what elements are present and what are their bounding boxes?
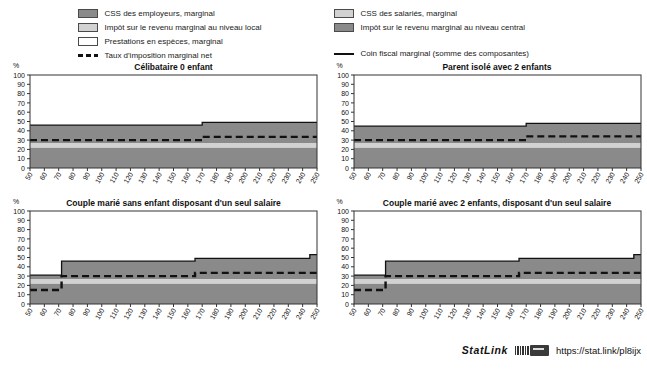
x-tick-label: 200	[237, 171, 249, 185]
chart-title-3: Couple marié avec 2 enfants, disposant d…	[354, 198, 641, 208]
area-band-2	[354, 279, 641, 284]
x-tick-label: 140	[151, 307, 163, 321]
y-tick-label: 40	[341, 127, 349, 134]
x-tick-label: 250	[309, 307, 321, 321]
y-tick-label: 90	[341, 217, 349, 224]
y-tick-label: 70	[17, 100, 25, 107]
x-tick-label: 90	[81, 171, 91, 181]
x-tick-label: 180	[209, 307, 221, 321]
y-tick-label: 40	[17, 263, 25, 270]
x-tick-label: 250	[632, 307, 644, 321]
x-tick-label: 210	[575, 307, 587, 321]
x-tick-label: 210	[575, 171, 587, 185]
x-tick-label: 80	[67, 171, 77, 181]
legend-item-income-tax-central: Impôt sur le revenu marginal au niveau c…	[334, 22, 574, 33]
y-tick-label: 10	[17, 155, 25, 162]
y-tick-label: 50	[341, 254, 349, 261]
y-tick-label: 60	[17, 109, 25, 116]
plot-area-0: 0102030405060708090100506070809010011012…	[0, 72, 323, 198]
y-tick-label: 30	[17, 137, 25, 144]
legend-label-employer-ssc: CSS des employeurs, marginal	[105, 9, 215, 18]
plot-svg-couple-marie-sans-enfant: 0102030405060708090100506070809010011012…	[0, 208, 323, 334]
legend-swatch-income-tax-central	[334, 23, 354, 32]
y-tick-label: 0	[345, 165, 349, 172]
x-tick-label: 190	[223, 171, 235, 185]
x-tick-label: 60	[38, 171, 48, 181]
legend-label-cash-benefits: Prestations en espèces, marginal	[105, 37, 223, 46]
x-tick-label: 140	[151, 171, 163, 185]
statlink-footer: StatLink https://stat.link/pl8ijx	[0, 339, 647, 361]
x-tick-label: 110	[432, 307, 444, 320]
x-tick-label: 240	[618, 307, 630, 321]
plot-area-3: 0102030405060708090100506070809010011012…	[324, 208, 647, 334]
x-tick-label: 70	[53, 307, 63, 317]
x-tick-label: 120	[122, 307, 134, 321]
x-tick-label: 250	[632, 171, 644, 185]
plot-svg-parent-isole-2-enfants: 0102030405060708090100506070809010011012…	[324, 72, 647, 198]
chart-panel-grid: % Célibataire 0 enfant 01020304050607080…	[0, 62, 647, 334]
y-tick-label: 90	[17, 217, 25, 224]
y-tick-label: 0	[21, 165, 25, 172]
legend-item-net-marginal-rate: Taux d'imposition marginal net	[78, 50, 324, 61]
legend-item-employee-ssc: CSS des salariés, marginal	[334, 8, 574, 19]
area-band-0	[354, 284, 641, 304]
y-tick-label: 50	[341, 118, 349, 125]
x-tick-label: 140	[475, 171, 487, 185]
chart-title-0: Célibataire 0 enfant	[30, 62, 317, 72]
y-tick-label: 20	[17, 282, 25, 289]
y-axis-unit-label-1: %	[337, 62, 343, 69]
y-tick-label: 30	[341, 273, 349, 280]
x-tick-label: 70	[376, 171, 386, 181]
y-tick-label: 70	[341, 236, 349, 243]
legend-solid-line-icon	[334, 49, 354, 58]
x-tick-label: 240	[295, 307, 307, 321]
y-tick-label: 60	[341, 109, 349, 116]
y-tick-label: 80	[341, 90, 349, 97]
legend-item-employer-ssc: CSS des employeurs, marginal	[78, 8, 324, 19]
x-tick-label: 120	[446, 307, 458, 321]
chart-title-1: Parent isolé avec 2 enfants	[354, 62, 641, 72]
y-tick-label: 70	[341, 100, 349, 107]
x-tick-label: 200	[561, 171, 573, 185]
y-tick-label: 50	[17, 254, 25, 261]
x-tick-label: 150	[489, 171, 501, 185]
x-tick-label: 220	[589, 307, 601, 321]
y-tick-label: 10	[17, 291, 25, 298]
x-tick-label: 50	[347, 171, 357, 181]
x-tick-label: 200	[561, 307, 573, 321]
x-tick-label: 160	[503, 171, 515, 185]
x-tick-label: 100	[417, 171, 429, 185]
y-tick-label: 70	[17, 236, 25, 243]
y-tick-label: 80	[17, 226, 25, 233]
x-tick-label: 200	[237, 307, 249, 321]
x-tick-label: 190	[223, 307, 235, 321]
x-tick-label: 110	[108, 307, 120, 320]
y-axis-unit-label-0: %	[13, 62, 19, 69]
y-tick-label: 30	[17, 273, 25, 280]
x-tick-label: 90	[405, 171, 415, 181]
x-tick-label: 50	[24, 307, 34, 317]
figure-root: CSS des employeurs, marginal Impôt sur l…	[0, 0, 647, 369]
x-tick-label: 210	[252, 307, 264, 321]
area-band-0	[30, 284, 317, 304]
x-tick-label: 190	[546, 171, 558, 185]
x-tick-label: 100	[94, 171, 106, 185]
y-tick-label: 100	[13, 72, 25, 79]
x-tick-label: 150	[165, 171, 177, 185]
legend-swatch-cash-benefits	[78, 37, 98, 46]
statlink-url[interactable]: https://stat.link/pl8ijx	[556, 345, 641, 356]
x-tick-label: 240	[295, 171, 307, 185]
x-tick-label: 100	[94, 307, 106, 321]
legend-dashed-line-icon	[78, 51, 98, 60]
y-tick-label: 100	[337, 72, 349, 79]
x-tick-label: 130	[137, 307, 149, 321]
y-tick-label: 100	[337, 208, 349, 215]
x-tick-label: 70	[53, 171, 63, 181]
x-tick-label: 90	[405, 307, 415, 317]
x-tick-label: 220	[266, 171, 278, 185]
legend-column-left: CSS des employeurs, marginal Impôt sur l…	[74, 8, 324, 62]
chart-panel-couple-marie-sans-enfant: % Couple marié sans enfant disposant d'u…	[0, 198, 323, 334]
x-tick-label: 60	[38, 307, 48, 317]
x-tick-label: 250	[309, 171, 321, 185]
x-tick-label: 110	[432, 171, 444, 184]
